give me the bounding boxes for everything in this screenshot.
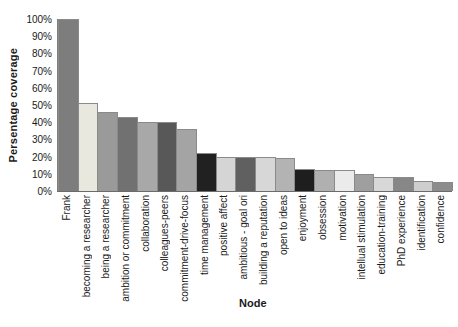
bar <box>294 169 315 191</box>
y-axis-tick-labels: 0%10%20%30%40%50%60%70%80%90%100% <box>0 19 52 191</box>
bar <box>314 170 335 191</box>
bar <box>157 122 178 191</box>
bar <box>78 103 99 191</box>
y-tick-label: 60% <box>32 82 52 93</box>
x-category-label: Frank <box>61 195 73 221</box>
bar <box>354 174 375 191</box>
bar <box>235 157 256 191</box>
bar <box>432 182 453 191</box>
x-category-label: time management <box>199 195 211 275</box>
x-category-cell: open to ideas <box>274 195 294 315</box>
bar <box>255 157 276 191</box>
x-category-label: building a reputation <box>258 195 270 285</box>
x-category-cell: obsession <box>313 195 333 315</box>
x-category-label: education-training <box>376 195 388 275</box>
x-axis-title: Node <box>239 297 267 309</box>
x-category-label: ambition or commitment <box>120 195 132 302</box>
x-category-cell: intellual stimulation <box>353 195 373 315</box>
x-category-cell: being a researcher <box>96 195 116 315</box>
y-tick-label: 30% <box>32 134 52 145</box>
x-category-label: intellual stimulation <box>356 195 368 280</box>
x-category-cell: positive affect <box>215 195 235 315</box>
x-category-cell: colleagues-peers <box>156 195 176 315</box>
x-category-cell: collaboration <box>136 195 156 315</box>
x-category-cell: motivation <box>333 195 353 315</box>
bar <box>117 117 138 191</box>
x-category-label: collaboration <box>140 195 152 252</box>
bar-chart: Persentage coverage 0%10%20%30%40%50%60%… <box>0 0 458 327</box>
y-tick-label: 20% <box>32 151 52 162</box>
x-category-label: obsession <box>317 195 329 240</box>
bar <box>196 153 217 191</box>
bar <box>176 129 197 191</box>
x-category-label: becoming a researcher <box>81 195 93 297</box>
bar <box>216 157 237 191</box>
x-category-label: confidence <box>435 195 447 243</box>
y-tick-label: 80% <box>32 48 52 59</box>
y-tick-label: 70% <box>32 65 52 76</box>
x-category-cell: ambition or commitment <box>116 195 136 315</box>
x-category-cell: enjoyment <box>293 195 313 315</box>
x-category-label: commitment-drive-focus <box>179 195 191 302</box>
bar <box>393 177 414 191</box>
bar <box>275 158 296 191</box>
x-category-cell: identification <box>412 195 432 315</box>
x-category-cell: becoming a researcher <box>77 195 97 315</box>
y-tick-label: 50% <box>32 100 52 111</box>
y-tick-label: 0% <box>38 186 52 197</box>
x-category-cell: PhD experience <box>392 195 412 315</box>
plot-area <box>57 19 452 192</box>
x-category-label: PhD experience <box>396 195 408 266</box>
bar <box>58 19 79 191</box>
y-tick-label: 90% <box>32 31 52 42</box>
y-tick-label: 40% <box>32 117 52 128</box>
x-category-cell: education-training <box>372 195 392 315</box>
x-category-cell: commitment-drive-focus <box>175 195 195 315</box>
x-category-label: colleagues-peers <box>159 195 171 271</box>
y-tick-label: 100% <box>26 14 52 25</box>
bar <box>334 170 355 191</box>
x-category-label: enjoyment <box>297 195 309 241</box>
x-category-cell: time management <box>195 195 215 315</box>
bar <box>137 122 158 191</box>
y-tick-label: 10% <box>32 168 52 179</box>
x-category-label: motivation <box>337 195 349 241</box>
bar <box>97 112 118 191</box>
x-category-label: ambitious - goal ori <box>238 195 250 279</box>
x-category-label: open to ideas <box>278 195 290 255</box>
x-category-label: positive affect <box>218 195 230 256</box>
x-category-cell: Frank <box>57 195 77 315</box>
bar <box>413 181 434 191</box>
x-category-cell: confidence <box>431 195 451 315</box>
x-category-label: identification <box>416 195 428 251</box>
bar <box>373 177 394 191</box>
x-category-label: being a researcher <box>100 195 112 278</box>
